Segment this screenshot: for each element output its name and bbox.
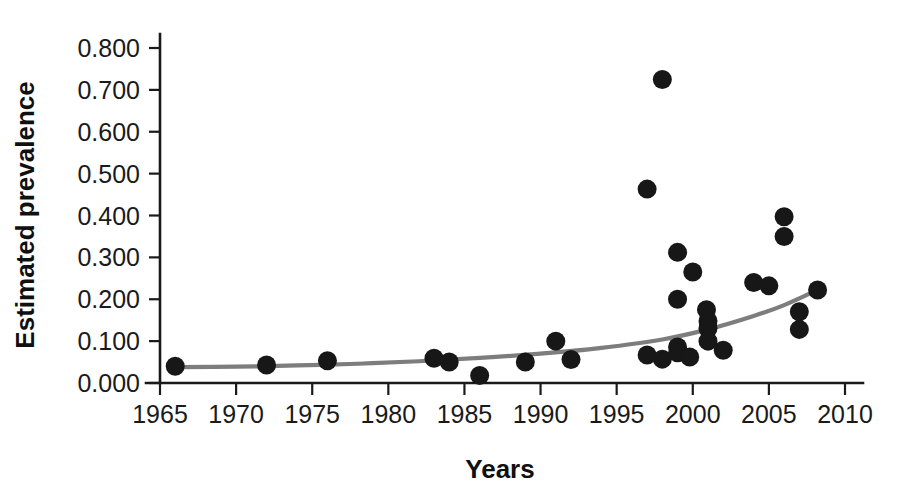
x-tick-label: 2010 xyxy=(817,400,873,428)
y-tick-label: 0.800 xyxy=(77,34,140,62)
y-tick-label: 0.500 xyxy=(77,160,140,188)
x-tick-label: 2000 xyxy=(665,400,721,428)
data-point xyxy=(562,350,581,369)
scatter-plot: 0.0000.1000.2000.3000.4000.5000.6000.700… xyxy=(0,0,909,493)
data-point xyxy=(546,332,565,351)
data-point xyxy=(775,227,794,246)
data-point xyxy=(775,207,794,226)
y-tick-label: 0.000 xyxy=(77,369,140,397)
data-point xyxy=(440,353,459,372)
data-point xyxy=(470,366,489,385)
data-point xyxy=(790,320,809,339)
data-point xyxy=(668,290,687,309)
y-axis-title: Estimated prevalence xyxy=(10,81,40,348)
y-tick-label: 0.400 xyxy=(77,202,140,230)
data-point xyxy=(683,263,702,282)
y-tick-label: 0.700 xyxy=(77,76,140,104)
chart-figure: 0.0000.1000.2000.3000.4000.5000.6000.700… xyxy=(0,0,909,493)
data-point xyxy=(318,351,337,370)
y-axis: 0.0000.1000.2000.3000.4000.5000.6000.700… xyxy=(77,34,160,397)
data-point xyxy=(166,357,185,376)
x-tick-label: 1975 xyxy=(284,400,340,428)
x-axis: 1965197019751980198519901995200020052010 xyxy=(132,383,873,428)
data-point xyxy=(808,281,827,300)
data-point xyxy=(653,70,672,89)
data-point xyxy=(668,243,687,262)
data-point xyxy=(257,355,276,374)
x-tick-label: 1990 xyxy=(513,400,569,428)
y-tick-label: 0.600 xyxy=(77,118,140,146)
x-tick-label: 1970 xyxy=(208,400,264,428)
x-tick-label: 1965 xyxy=(132,400,188,428)
y-tick-label: 0.200 xyxy=(77,285,140,313)
data-points xyxy=(166,70,827,385)
data-point xyxy=(714,341,733,360)
data-point xyxy=(638,180,657,199)
data-point xyxy=(516,353,535,372)
x-tick-label: 1995 xyxy=(589,400,645,428)
x-tick-label: 1980 xyxy=(361,400,417,428)
y-tick-label: 0.300 xyxy=(77,243,140,271)
data-point xyxy=(759,276,778,295)
data-point xyxy=(790,302,809,321)
x-tick-label: 1985 xyxy=(437,400,493,428)
x-axis-title: Years xyxy=(465,454,534,484)
y-tick-label: 0.100 xyxy=(77,327,140,355)
x-tick-label: 2005 xyxy=(741,400,797,428)
data-point xyxy=(680,348,699,367)
